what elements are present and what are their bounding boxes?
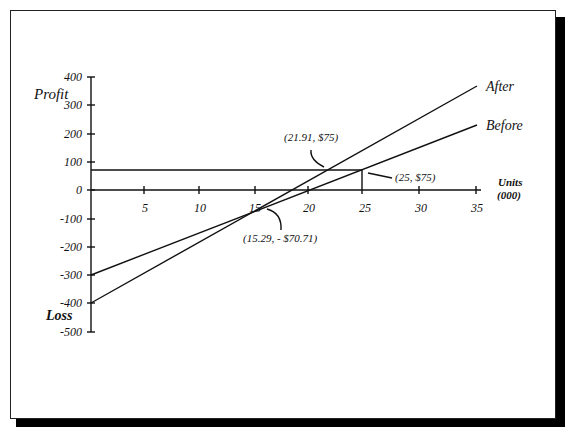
svg-text:-300: -300 bbox=[60, 268, 82, 282]
units-sub-label: (000) bbox=[497, 189, 521, 202]
svg-text:-500: -500 bbox=[60, 325, 82, 339]
series-after-line bbox=[91, 86, 477, 303]
svg-text:20: 20 bbox=[303, 201, 315, 215]
x-tick-labels: 5 10 15 20 25 30 35 bbox=[142, 201, 483, 215]
svg-text:100: 100 bbox=[64, 155, 82, 169]
svg-text:15: 15 bbox=[249, 201, 261, 215]
svg-text:400: 400 bbox=[64, 70, 82, 84]
annotation-21-91: (21.91, $75) bbox=[284, 131, 338, 144]
svg-text:0: 0 bbox=[76, 183, 82, 197]
before-label: Before bbox=[486, 118, 523, 133]
svg-text:35: 35 bbox=[470, 201, 483, 215]
after-label: After bbox=[485, 79, 515, 94]
svg-text:30: 30 bbox=[414, 201, 427, 215]
svg-text:-200: -200 bbox=[60, 240, 82, 254]
loss-label: Loss bbox=[45, 308, 73, 323]
y-tick-labels: 400 300 200 100 0 -100 -200 -300 -400 -5… bbox=[60, 70, 82, 339]
callout-21-91 bbox=[311, 150, 324, 167]
svg-text:200: 200 bbox=[64, 127, 82, 141]
svg-text:5: 5 bbox=[142, 201, 148, 215]
profit-label: Profit bbox=[33, 86, 69, 102]
svg-text:10: 10 bbox=[194, 201, 206, 215]
svg-text:25: 25 bbox=[359, 201, 371, 215]
svg-text:-100: -100 bbox=[60, 212, 82, 226]
annotation-25: (25, $75) bbox=[395, 171, 436, 184]
break-even-chart: 400 300 200 100 0 -100 -200 -300 -400 -5… bbox=[0, 0, 571, 430]
callout-25 bbox=[368, 173, 392, 178]
series-before-line bbox=[91, 125, 477, 275]
units-label: Units bbox=[498, 176, 522, 188]
callout-15-29 bbox=[267, 209, 281, 230]
annotation-15-29: (15.29, - $70.71) bbox=[243, 232, 318, 245]
